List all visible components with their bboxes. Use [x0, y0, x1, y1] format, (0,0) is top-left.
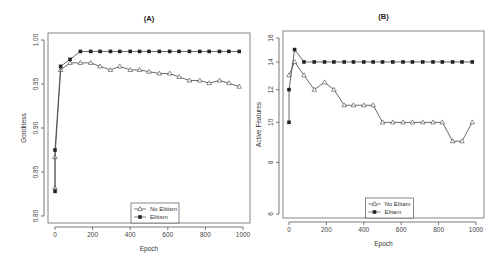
square-marker	[460, 60, 464, 64]
square-marker	[381, 60, 385, 64]
square-marker	[312, 60, 316, 64]
square-marker	[352, 60, 356, 64]
legend: No ElitismElitism	[131, 203, 179, 223]
panel-title: (B)	[378, 12, 389, 21]
plot-frame	[283, 31, 484, 218]
series-line	[289, 50, 472, 123]
square-marker	[218, 50, 222, 54]
square-marker	[227, 50, 231, 54]
square-marker	[118, 50, 122, 54]
square-marker	[371, 60, 375, 64]
triangle-marker	[118, 64, 123, 68]
x-axis-title: Epoch	[140, 245, 159, 253]
y-tick-label: 6	[267, 212, 274, 216]
square-marker	[158, 50, 162, 54]
square-marker	[207, 50, 211, 54]
square-marker	[109, 50, 113, 54]
square-marker	[287, 88, 291, 92]
square-marker	[53, 190, 57, 194]
x-axis: 02004006008001000	[53, 227, 250, 238]
square-marker	[323, 60, 327, 64]
x-tick-label: 800	[200, 231, 211, 238]
y-tick-label: 1.00	[32, 33, 39, 46]
square-marker	[441, 60, 445, 64]
square-marker	[470, 60, 474, 64]
square-marker	[98, 50, 102, 54]
legend-label: No Elitism	[150, 206, 177, 212]
triangle-marker	[470, 120, 475, 124]
square-marker	[177, 50, 181, 54]
y-tick-label: 12	[267, 86, 274, 94]
panel-title: (A)	[144, 14, 155, 23]
x-tick-label: 400	[125, 231, 136, 238]
square-marker	[431, 60, 435, 64]
x-axis-title: Epoch	[374, 240, 393, 248]
panel-a-goodness-chart: (A)02004006008001000Epoch0.800.850.900.9…	[20, 14, 251, 253]
square-marker	[451, 60, 455, 64]
y-tick-label: 0.95	[32, 77, 39, 90]
y-tick-label: 16	[267, 34, 274, 42]
square-marker	[128, 50, 132, 54]
square-marker	[302, 60, 306, 64]
square-marker	[168, 50, 172, 54]
square-marker	[237, 50, 241, 54]
square-marker	[198, 50, 202, 54]
y-tick-label: 0.85	[32, 165, 39, 178]
y-tick-label: 8	[267, 160, 274, 164]
figure: (A)02004006008001000Epoch0.800.850.900.9…	[0, 0, 503, 264]
y-tick-label: 0.90	[32, 121, 39, 134]
square-marker	[138, 215, 142, 219]
triangle-marker	[332, 87, 337, 91]
x-tick-label: 800	[433, 226, 444, 233]
y-axis: 6810121416	[267, 34, 279, 216]
series-line	[55, 63, 239, 188]
square-marker	[53, 148, 57, 152]
series-no-elitism	[53, 60, 242, 189]
triangle-marker	[217, 78, 222, 82]
square-marker	[287, 121, 291, 125]
series-no-elitam	[287, 60, 475, 143]
x-tick-label: 600	[396, 226, 407, 233]
x-tick-label: 200	[321, 226, 332, 233]
legend: No ElitamElitam	[366, 198, 414, 218]
x-tick-label: 400	[358, 226, 369, 233]
triangle-marker	[450, 139, 455, 143]
square-marker	[188, 50, 192, 54]
x-axis: 02004006008001000	[287, 222, 483, 233]
square-marker	[373, 210, 377, 214]
square-marker	[391, 60, 395, 64]
x-tick-label: 600	[162, 231, 173, 238]
series-line	[289, 62, 472, 141]
square-marker	[147, 50, 151, 54]
triangle-marker	[460, 139, 465, 143]
legend-label: No Elitam	[385, 201, 411, 207]
y-axis-title: Goodness	[20, 112, 27, 142]
y-axis-title: Active Features	[255, 101, 262, 147]
y-tick-label: 14	[267, 58, 274, 66]
square-marker	[342, 60, 346, 64]
square-marker	[411, 60, 415, 64]
x-tick-label: 200	[87, 231, 98, 238]
square-marker	[421, 60, 425, 64]
x-tick-label: 0	[287, 226, 291, 233]
square-marker	[89, 50, 93, 54]
y-tick-label: 0.80	[32, 209, 39, 222]
square-marker	[59, 65, 63, 69]
x-tick-label: 0	[53, 231, 57, 238]
y-axis: 0.800.850.900.951.00	[32, 33, 44, 222]
square-marker	[79, 50, 83, 54]
legend-label: Elitism	[150, 214, 168, 220]
series-elitam	[287, 48, 474, 124]
y-tick-label: 10	[267, 118, 274, 126]
plot-frame	[48, 33, 250, 223]
square-marker	[293, 48, 297, 52]
panel-b-active-features-chart: (B)02004006008001000Epoch6810121416Activ…	[255, 12, 484, 248]
x-tick-label: 1000	[469, 226, 484, 233]
square-marker	[401, 60, 405, 64]
square-marker	[332, 60, 336, 64]
legend-label: Elitam	[385, 209, 402, 215]
square-marker	[68, 58, 72, 62]
x-tick-label: 1000	[236, 231, 251, 238]
square-marker	[138, 50, 142, 54]
triangle-marker	[322, 80, 327, 84]
